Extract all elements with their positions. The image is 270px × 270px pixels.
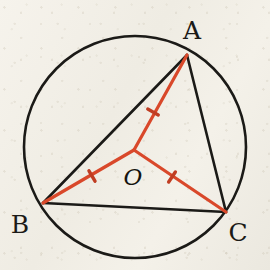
geometry-figure: A B C O: [0, 0, 270, 270]
side-bc: [43, 203, 226, 212]
side-ab: [43, 55, 187, 203]
center-label-o: O: [124, 166, 143, 189]
vertex-label-c: C: [228, 220, 247, 245]
vertex-label-a: A: [183, 18, 201, 43]
vertex-label-b: B: [11, 212, 29, 237]
